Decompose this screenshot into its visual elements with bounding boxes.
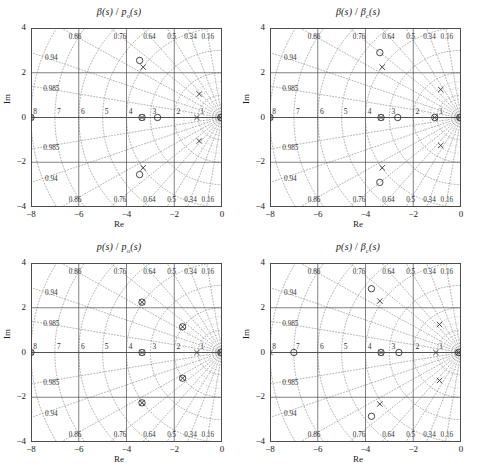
damping-ratio-label: 0.76 [114,196,127,204]
damping-ratio-label: 0.16 [441,268,454,276]
pole-zero-plot-bottom-right: p(s) / βc(s)ImRe420−2−4−8−6−4−200.160.16… [239,235,477,470]
natural-frequency-label: 3 [153,342,157,351]
x-tick-label: 0 [209,209,235,219]
damping-ratio-label: 0.34 [184,431,197,439]
damping-ratio-label: 0.94 [45,289,58,297]
y-tick-label: 4 [4,257,26,267]
x-tick-label: −6 [305,444,331,454]
damping-ratio-label: 0.34 [184,268,197,276]
natural-frequency-label: 7 [57,107,61,116]
y-tick-label: 0 [243,347,265,357]
pole-zero-plot-bottom-left: p(s) / po(s)ImRe420−2−4−8−6−4−200.160.16… [0,235,238,470]
damping-ratio-label: 0.64 [382,33,395,41]
damping-ratio-label: 0.64 [143,33,156,41]
damping-ratio-label: 0.5 [167,33,176,41]
damping-ratio-label: 0.34 [184,196,197,204]
natural-frequency-label: 4 [129,107,133,116]
plot-canvas: 0.160.160.340.340.50.50.640.640.760.760.… [31,263,222,442]
natural-frequency-label: 8 [272,342,276,351]
damping-ratio-label: 0.985 [43,379,60,387]
natural-frequency-label: 3 [392,107,396,116]
y-tick-label: 2 [4,67,26,77]
natural-frequency-label: 7 [57,342,61,351]
plot-title: β(s) / βc(s) [239,6,477,19]
pole-zero-plot-top-left: β(s) / po(s)ImRe420−2−4−8−6−4−200.160.16… [0,0,238,235]
title-numerator: β(s) [97,6,113,17]
pole-marker [180,324,185,329]
damping-ratio-label: 0.985 [43,85,60,93]
title-slash: / [352,241,360,252]
x-tick-label: −6 [66,209,92,219]
natural-frequency-label: 1 [439,342,443,351]
y-axis-label: Im [2,94,12,104]
damping-ratio-label: 0.64 [143,268,156,276]
zero-marker [377,179,383,185]
damping-ratio-label: 0.86 [308,268,321,276]
damping-ratio-label: 0.94 [45,410,58,418]
natural-frequency-label: 3 [392,342,396,351]
damping-ratio-label: 0.985 [43,320,60,328]
x-tick-label: −4 [114,444,140,454]
y-axis-label: Im [241,94,251,104]
damping-ratio-label: 0.94 [45,175,58,183]
damping-ratio-label: 0.94 [45,54,58,62]
y-tick-label: −2 [243,391,265,401]
title-denominator-tail: (s) [369,6,380,17]
natural-frequency-label: 6 [320,342,324,351]
natural-frequency-label: 1 [200,342,204,351]
plot-area: 0.160.160.340.340.50.50.640.640.760.760.… [31,28,222,207]
damping-ratio-label: 0.76 [353,33,366,41]
damping-ratio-label: 0.16 [441,431,454,439]
damping-ratio-label: 0.34 [423,268,436,276]
damping-ratio-label: 0.94 [284,175,297,183]
natural-frequency-label: 2 [415,107,419,116]
damping-ratio-label: 0.64 [143,196,156,204]
zero-marker [368,286,374,292]
title-denominator-tail: (s) [130,241,141,252]
x-tick-label: 0 [448,444,474,454]
damping-ratio-label: 0.86 [308,431,321,439]
natural-frequency-label: 1 [439,107,443,116]
damping-ratio-label: 0.86 [69,196,82,204]
x-tick-label: −4 [353,444,379,454]
natural-frequency-label: 1 [200,107,204,116]
damping-ratio-label: 0.16 [441,33,454,41]
plot-title: β(s) / po(s) [0,6,238,19]
x-tick-label: 0 [209,444,235,454]
zero-marker [368,413,374,419]
damping-ratio-label: 0.5 [167,196,176,204]
damping-ratio-label: 0.86 [69,33,82,41]
damping-ratio-label: 0.76 [114,33,127,41]
zero-marker [136,57,142,63]
natural-frequency-label: 4 [368,107,372,116]
plot-title: p(s) / po(s) [0,241,238,254]
damping-ratio-label: 0.16 [441,196,454,204]
plot-area: 0.160.160.340.340.50.50.640.640.760.760.… [270,263,461,442]
x-tick-label: −6 [305,209,331,219]
x-tick-label: −2 [161,444,187,454]
natural-frequency-label: 2 [176,342,180,351]
x-tick-label: −4 [353,209,379,219]
title-denominator-tail: (s) [369,241,380,252]
x-tick-label: −8 [18,444,44,454]
natural-frequency-label: 7 [296,107,300,116]
natural-frequency-label: 6 [320,107,324,116]
plot-canvas: 0.160.160.340.340.50.50.640.640.760.760.… [270,263,461,442]
pole-marker [380,165,385,170]
x-axis-label: Re [239,454,477,464]
natural-frequency-label: 6 [81,107,85,116]
natural-frequency-label: 5 [344,107,348,116]
title-numerator: β(s) [336,6,352,17]
damping-ratio-label: 0.94 [284,410,297,418]
pole-marker [377,401,382,406]
x-tick-label: −2 [400,209,426,219]
plot-area: 0.160.160.340.340.50.50.640.640.760.760.… [31,263,222,442]
damping-ratio-label: 0.86 [69,268,82,276]
damping-ratio-label: 0.5 [406,431,415,439]
damping-ratio-label: 0.985 [282,379,299,387]
zero-marker [377,49,383,55]
title-denominator-tail: (s) [130,6,141,17]
damping-ratio-label: 0.16 [202,268,215,276]
y-tick-label: −2 [4,156,26,166]
natural-frequency-label: 5 [105,107,109,116]
